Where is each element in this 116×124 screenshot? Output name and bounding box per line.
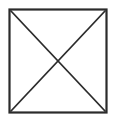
figure-canvas	[0, 0, 116, 124]
square-with-diagonals-diagram	[0, 0, 116, 124]
